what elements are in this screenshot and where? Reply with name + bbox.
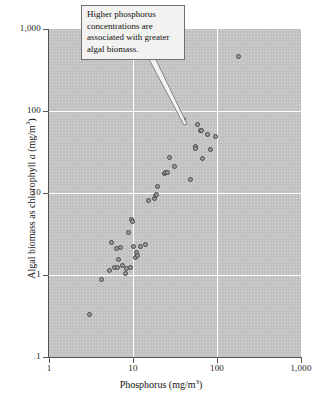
data-point bbox=[131, 244, 136, 249]
data-point bbox=[172, 164, 177, 169]
data-point bbox=[130, 219, 135, 224]
data-point bbox=[107, 268, 112, 273]
x-axis-tick-label: 10 bbox=[128, 363, 137, 373]
data-point bbox=[87, 312, 92, 317]
data-point bbox=[126, 230, 131, 235]
data-point bbox=[195, 122, 200, 127]
data-point bbox=[167, 155, 172, 160]
y-axis-title-exponent: 3 bbox=[24, 122, 32, 126]
data-point bbox=[154, 192, 159, 197]
data-point bbox=[205, 132, 210, 137]
x-axis-tick-label: 1 bbox=[47, 363, 52, 373]
gridline-horizontal bbox=[49, 111, 301, 112]
y-axis-tick bbox=[43, 29, 49, 30]
x-axis-title: Phosphorus (mg/m3) bbox=[0, 379, 322, 390]
data-point bbox=[181, 117, 186, 122]
data-point bbox=[123, 271, 128, 276]
data-point bbox=[146, 198, 151, 203]
x-axis-line bbox=[49, 357, 302, 358]
data-point bbox=[236, 54, 241, 59]
y-axis-tick bbox=[43, 275, 49, 276]
gridline-horizontal bbox=[49, 275, 301, 276]
y-axis-tick bbox=[43, 193, 49, 194]
y-axis-title-end: ) bbox=[26, 118, 37, 121]
data-point bbox=[208, 147, 213, 152]
annotation-text: Higher phosphorus concentrations are ass… bbox=[87, 9, 169, 54]
data-point bbox=[128, 265, 133, 270]
y-axis-title: Algal biomass as chlorophyll a (mg/m3) bbox=[26, 79, 37, 319]
y-axis-tick bbox=[43, 111, 49, 112]
y-axis-title-italic: a bbox=[26, 154, 37, 159]
scatter-plot-figure: Higher phosphorus concentrations are ass… bbox=[0, 0, 322, 405]
y-axis-tick-label: .1 bbox=[34, 351, 41, 361]
gridline-vertical bbox=[133, 29, 134, 357]
y-axis-title-pre: Algal biomass as chlorophyll bbox=[26, 159, 37, 278]
annotation-callout: Higher phosphorus concentrations are ass… bbox=[81, 5, 185, 60]
data-point bbox=[193, 146, 198, 151]
y-axis-tick-label: 1,000 bbox=[20, 23, 41, 33]
gridline-horizontal bbox=[49, 193, 301, 194]
data-point bbox=[155, 184, 160, 189]
x-axis-tick-label: 1,000 bbox=[290, 363, 311, 373]
data-point bbox=[135, 253, 140, 258]
y-axis-title-mid: (mg/m bbox=[26, 125, 37, 154]
data-point bbox=[115, 265, 120, 270]
x-axis-tick-label: 100 bbox=[210, 363, 224, 373]
data-point bbox=[109, 240, 114, 245]
plot-area bbox=[49, 29, 301, 357]
y-axis-tick-label: 1 bbox=[36, 269, 41, 279]
x-axis-title-main: Phosphorus (mg/m bbox=[120, 379, 196, 390]
data-point bbox=[188, 177, 193, 182]
data-point bbox=[116, 257, 121, 262]
data-point bbox=[199, 128, 204, 133]
data-point bbox=[200, 156, 205, 161]
data-point bbox=[143, 242, 148, 247]
x-axis-title-end: ) bbox=[199, 379, 202, 390]
data-point bbox=[99, 277, 104, 282]
gridline-vertical bbox=[217, 29, 218, 357]
data-point bbox=[213, 134, 218, 139]
data-point bbox=[118, 245, 123, 250]
data-point bbox=[165, 170, 170, 175]
